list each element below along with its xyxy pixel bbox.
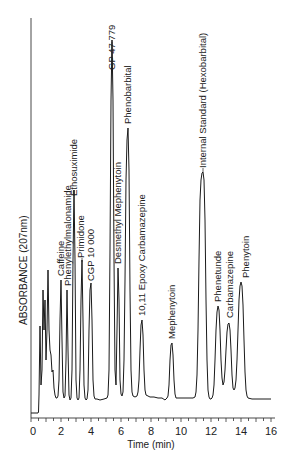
label-phenytoin: Phenytoin bbox=[240, 236, 251, 278]
x-axis-title: Time (min) bbox=[127, 439, 174, 450]
label-cgp: CGP 10 000 bbox=[85, 229, 96, 281]
x-tick-2: 2 bbox=[58, 425, 64, 437]
x-tick-10: 10 bbox=[175, 425, 187, 437]
x-tick-16: 16 bbox=[265, 425, 277, 437]
label-gp: GP 47 779 bbox=[106, 25, 117, 70]
x-tick-labels: 0 2 4 6 8 10 12 14 16 bbox=[30, 425, 277, 437]
x-tick-8: 8 bbox=[148, 425, 154, 437]
label-phenetunde: Phenetunde bbox=[212, 251, 223, 302]
label-desmethyl: Desmethyl Mephenytoin bbox=[112, 162, 123, 264]
label-phenylethylmalonamide: Phenylethylmalonamide bbox=[62, 185, 73, 286]
chromatogram-chart: 0 2 4 6 8 10 12 14 16 Time (min) ABSORBA… bbox=[0, 0, 287, 457]
x-tick-14: 14 bbox=[235, 425, 247, 437]
x-tick-0: 0 bbox=[30, 425, 36, 437]
label-internal-standard: Internal Standard (Hexobarbital) bbox=[197, 33, 208, 168]
x-tick-12: 12 bbox=[205, 425, 217, 437]
label-phenobarbital: Phenobarbital bbox=[122, 65, 133, 124]
label-ethosuximide: Ethosuximide bbox=[68, 139, 79, 196]
label-mephenytoin: Mephenytoin bbox=[166, 285, 177, 339]
label-carbamazepine: Carbamazepine bbox=[224, 251, 235, 318]
x-axis-ticks bbox=[31, 418, 271, 422]
x-tick-4: 4 bbox=[88, 425, 94, 437]
label-epoxy: 10,11 Epoxy Carbamazepine bbox=[136, 194, 147, 316]
peak-labels: Caffeine Phenylethylmalonamide Ethosuxim… bbox=[55, 25, 251, 339]
y-axis-title: ABSORBANCE (207nm) bbox=[18, 216, 29, 325]
x-tick-6: 6 bbox=[118, 425, 124, 437]
